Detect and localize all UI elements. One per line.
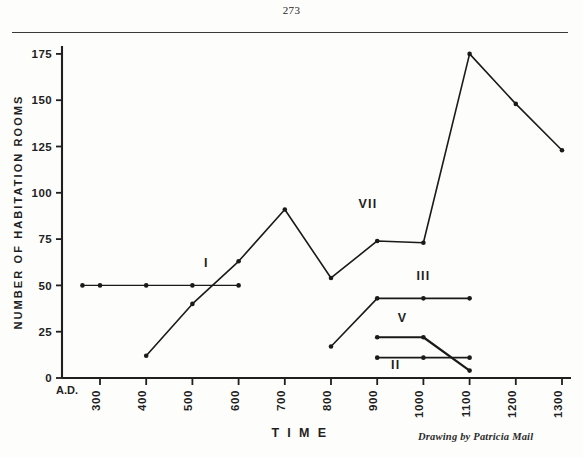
y-tick-label: 50 (38, 280, 52, 292)
series-line-VII (146, 54, 562, 356)
page-canvas: 273 0255075100125150175 3004005006007008… (0, 0, 583, 457)
data-point-VII (236, 259, 241, 264)
y-axis-title: NUMBER OF HABITATION ROOMS (12, 94, 24, 329)
drawing-credit: Drawing by Patricia Mail (418, 431, 533, 442)
y-tick-label: 150 (32, 94, 52, 106)
x-axis-origin-label: A.D. (56, 384, 78, 396)
data-point-VII (283, 207, 288, 212)
series-annotation: II (391, 358, 400, 372)
y-tick-label: 125 (32, 141, 53, 153)
chart-series-lines (80, 52, 564, 373)
data-point-VII (329, 276, 334, 281)
x-axis-ticks: 3004005006007008009001000110012001300A.D… (56, 378, 564, 418)
data-point-V (467, 368, 472, 373)
chart-axes (62, 46, 571, 378)
data-point-III (329, 344, 334, 349)
data-point-VII (421, 241, 426, 246)
data-point-V (421, 335, 426, 340)
x-tick-label: 500 (182, 390, 194, 411)
data-point-VII (560, 148, 565, 153)
data-point-II (467, 355, 472, 360)
x-tick-label: 800 (321, 390, 333, 411)
data-point-III (375, 296, 380, 301)
data-point-VII (375, 239, 380, 244)
x-tick-label: 1300 (552, 390, 564, 418)
data-point-III (467, 296, 472, 301)
series-annotation: VII (359, 197, 378, 211)
data-point-VII (190, 302, 195, 307)
series-annotation: V (398, 311, 408, 325)
data-point-I (80, 283, 85, 288)
data-point-I (236, 283, 241, 288)
x-tick-label: 400 (136, 390, 148, 411)
habitation-rooms-line-chart: 0255075100125150175 30040050060070080090… (0, 0, 583, 457)
data-point-II (375, 355, 380, 360)
data-point-III (421, 296, 426, 301)
data-point-I (98, 283, 103, 288)
data-point-I (144, 283, 149, 288)
y-tick-label: 100 (32, 187, 52, 199)
data-point-II (421, 355, 426, 360)
x-tick-label: 1100 (460, 390, 472, 417)
x-axis-title: T I M E (271, 426, 328, 440)
y-tick-label: 175 (32, 48, 53, 60)
x-tick-label: 1200 (506, 390, 518, 418)
y-tick-label: 0 (45, 372, 52, 384)
data-point-VII (514, 102, 519, 107)
x-tick-label: 600 (229, 390, 241, 411)
series-annotation: III (416, 269, 430, 283)
data-point-V (375, 335, 380, 340)
data-point-I (190, 283, 195, 288)
series-annotation: I (204, 256, 209, 270)
x-tick-label: 300 (90, 390, 102, 411)
data-point-VII (467, 52, 472, 57)
x-tick-label: 700 (275, 390, 287, 411)
y-tick-label: 75 (38, 233, 52, 245)
data-point-VII (144, 353, 149, 358)
y-axis-ticks: 0255075100125150175 (32, 48, 62, 384)
x-tick-label: 900 (367, 390, 379, 411)
x-tick-label: 1000 (413, 390, 425, 418)
y-tick-label: 25 (38, 326, 52, 338)
